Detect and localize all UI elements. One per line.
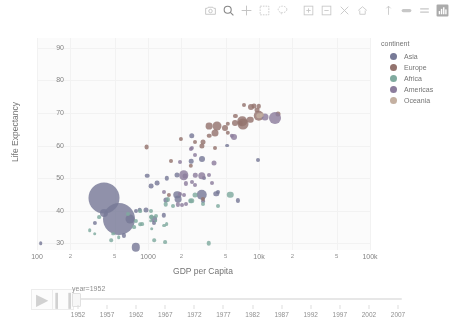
camera-icon[interactable] xyxy=(203,3,218,18)
bubble-marker[interactable] xyxy=(149,184,154,189)
slider-handle[interactable] xyxy=(72,293,81,307)
zoom-box-select-icon[interactable] xyxy=(257,3,272,18)
bubble-marker[interactable] xyxy=(193,153,197,157)
bubble-marker[interactable] xyxy=(189,199,193,203)
bubble-marker[interactable] xyxy=(162,190,166,194)
slider-tick-mark[interactable] xyxy=(252,305,253,309)
bubble-marker[interactable] xyxy=(216,204,220,208)
bubble-marker[interactable] xyxy=(182,193,186,197)
slider-tick-label[interactable]: 1982 xyxy=(245,311,259,318)
bubble-marker[interactable] xyxy=(152,238,156,242)
bubble-marker[interactable] xyxy=(144,207,149,212)
legend-item-europe[interactable]: Europe xyxy=(381,62,433,73)
bubble-marker[interactable] xyxy=(237,119,248,130)
bubble-marker[interactable] xyxy=(210,181,214,185)
bubble-marker[interactable] xyxy=(212,160,217,165)
bubble-marker[interactable] xyxy=(126,212,130,216)
slider-tick-mark[interactable] xyxy=(78,305,79,309)
bubble-marker[interactable] xyxy=(222,125,228,131)
zoom-out-icon[interactable] xyxy=(319,3,334,18)
legend-item-americas[interactable]: Americas xyxy=(381,84,433,95)
bubble-marker[interactable] xyxy=(182,174,187,179)
bubble-marker[interactable] xyxy=(154,214,158,218)
bubble-marker[interactable] xyxy=(201,202,205,206)
bubble-marker[interactable] xyxy=(117,235,121,239)
bubble-marker[interactable] xyxy=(207,134,212,139)
autoscale-icon[interactable] xyxy=(337,3,352,18)
slider-tick-label[interactable]: 1997 xyxy=(333,311,347,318)
bubble-marker[interactable] xyxy=(169,159,173,163)
plotly-logo-icon[interactable] xyxy=(435,3,450,18)
bubble-marker[interactable] xyxy=(205,123,212,130)
slider-track[interactable] xyxy=(75,298,402,300)
bubble-marker[interactable] xyxy=(93,232,97,236)
slider-tick-label[interactable]: 1977 xyxy=(216,311,230,318)
bubble-marker[interactable] xyxy=(171,204,175,208)
bubble-marker[interactable] xyxy=(111,232,115,236)
legend[interactable]: continent AsiaEuropeAfricaAmericasOceani… xyxy=(381,40,433,106)
slider-tick-label[interactable]: 1952 xyxy=(71,311,85,318)
bubble-marker[interactable] xyxy=(163,202,168,207)
bubble-marker[interactable] xyxy=(225,144,229,148)
playback-buttons[interactable]: ▶ ❙❙ xyxy=(31,289,74,310)
scatter-chart[interactable]: 30405060708090 1002510002510k25100k GDP … xyxy=(0,22,454,280)
bubble-marker[interactable] xyxy=(193,183,197,187)
bubble-marker[interactable] xyxy=(139,222,143,226)
slider-tick-label[interactable]: 1967 xyxy=(158,311,172,318)
legend-item-oceania[interactable]: Oceania xyxy=(381,95,433,106)
bubble-marker[interactable] xyxy=(145,173,150,178)
slider-tick-mark[interactable] xyxy=(398,305,399,309)
slider-tick-label[interactable]: 1962 xyxy=(129,311,143,318)
slider-tick-mark[interactable] xyxy=(223,305,224,309)
bubble-marker[interactable] xyxy=(88,229,92,233)
slider-tick-label[interactable]: 1957 xyxy=(100,311,114,318)
bubble-marker[interactable] xyxy=(144,145,149,150)
bubble-marker[interactable] xyxy=(163,241,167,245)
bubble-marker[interactable] xyxy=(199,156,205,162)
bubble-marker[interactable] xyxy=(132,225,136,229)
slider-tick-mark[interactable] xyxy=(194,305,195,309)
bubble-marker[interactable] xyxy=(110,238,114,242)
bubble-marker[interactable] xyxy=(132,243,140,251)
slider-tick-label[interactable]: 2007 xyxy=(391,311,405,318)
legend-item-asia[interactable]: Asia xyxy=(381,51,433,62)
bubble-marker[interactable] xyxy=(206,241,211,246)
bubble-marker[interactable] xyxy=(154,219,158,223)
bubble-marker[interactable] xyxy=(180,203,184,207)
slider-tick-mark[interactable] xyxy=(368,305,369,309)
bubble-marker[interactable] xyxy=(178,160,182,164)
legend-entries[interactable]: AsiaEuropeAfricaAmericasOceania xyxy=(381,51,433,106)
bubble-marker[interactable] xyxy=(165,222,169,226)
legend-item-africa[interactable]: Africa xyxy=(381,73,433,84)
slider-tick-mark[interactable] xyxy=(310,305,311,309)
slider-tick-mark[interactable] xyxy=(107,305,108,309)
slider-tick-mark[interactable] xyxy=(339,305,340,309)
bubble-marker[interactable] xyxy=(269,112,281,124)
zoom-icon[interactable] xyxy=(221,3,236,18)
bubble-marker[interactable] xyxy=(149,219,153,223)
plotly-modebar[interactable] xyxy=(203,1,450,19)
slider-tick-label[interactable]: 1992 xyxy=(303,311,317,318)
bubble-marker[interactable] xyxy=(149,209,153,213)
hover-compare-icon[interactable] xyxy=(399,3,414,18)
bubble-marker[interactable] xyxy=(189,133,195,139)
hover-closest-icon[interactable] xyxy=(417,3,432,18)
lasso-select-icon[interactable] xyxy=(275,3,290,18)
bubble-marker[interactable] xyxy=(213,146,217,150)
slider-tick-mark[interactable] xyxy=(136,305,137,309)
reset-axes-icon[interactable] xyxy=(355,3,370,18)
bubble-marker[interactable] xyxy=(103,203,135,235)
bubble-marker[interactable] xyxy=(207,173,211,177)
bubble-marker[interactable] xyxy=(97,215,101,219)
bubble-marker[interactable] xyxy=(201,197,205,201)
slider-tick-label[interactable]: 1987 xyxy=(274,311,288,318)
bubble-marker[interactable] xyxy=(193,140,197,144)
zoom-in-icon[interactable] xyxy=(301,3,316,18)
slider-tick-label[interactable]: 2002 xyxy=(362,311,376,318)
bubble-marker[interactable] xyxy=(242,103,246,107)
bubble-marker[interactable] xyxy=(138,209,142,213)
bubble-marker[interactable] xyxy=(155,181,160,186)
slider-tick-mark[interactable] xyxy=(165,305,166,309)
bubble-marker[interactable] xyxy=(212,129,219,136)
bubble-marker[interactable] xyxy=(193,192,198,197)
